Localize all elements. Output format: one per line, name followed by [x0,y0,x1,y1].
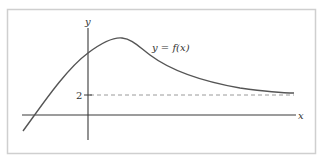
graph-svg: y x 2 y = f(x) [0,0,333,160]
y-axis-label: y [84,16,91,27]
figure-frame [8,10,316,154]
asymptote-value-label: 2 [76,90,82,101]
x-axis-label: x [298,110,304,121]
function-graph-figure: y x 2 y = f(x) [0,0,333,160]
curve-label: y = f(x) [151,42,190,53]
